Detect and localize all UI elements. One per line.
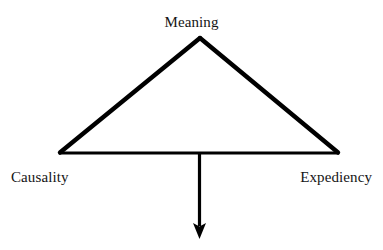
diagram-canvas: Meaning Causality Expediency [0, 0, 383, 250]
triangle-arrow-graphic [0, 0, 383, 250]
apex-label-meaning: Meaning [0, 13, 383, 31]
triangle-right-side [200, 38, 338, 153]
bottom-right-label-expediency: Expediency [300, 168, 372, 186]
triangle-left-side [60, 38, 200, 153]
bottom-left-label-causality: Causality [11, 168, 69, 186]
